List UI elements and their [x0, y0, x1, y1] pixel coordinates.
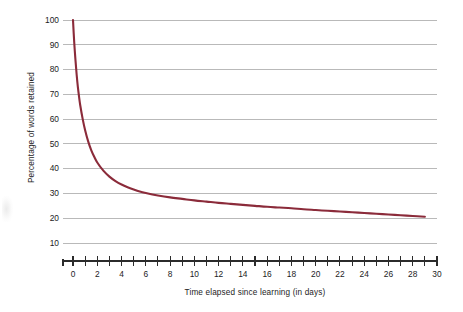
- x-axis-tick-label: 26: [376, 269, 400, 279]
- x-axis-tick-label: 2: [85, 269, 109, 279]
- x-axis: [63, 256, 438, 266]
- x-axis-title: Time elapsed since learning (in days): [73, 288, 437, 297]
- y-axis-title: Percentage of words retained: [27, 33, 36, 223]
- x-axis-tick-label: 8: [158, 269, 182, 279]
- x-axis-tick-label: 10: [182, 269, 206, 279]
- curve-path: [73, 20, 425, 217]
- x-axis-tick-label: 30: [425, 269, 449, 279]
- chart-canvas: [0, 0, 463, 312]
- x-axis-tick-label: 16: [255, 269, 279, 279]
- retention-curve: [73, 20, 425, 217]
- x-axis-tick-label: 12: [207, 269, 231, 279]
- y-axis-tick-label: 10: [31, 238, 59, 248]
- x-axis-tick-label: 0: [61, 269, 85, 279]
- forgetting-curve-chart: 102030405060708090100 024681012141618202…: [0, 0, 463, 312]
- gridlines: [63, 20, 437, 243]
- x-axis-tick-label: 14: [231, 269, 255, 279]
- x-axis-tick-label: 22: [328, 269, 352, 279]
- x-axis-tick-label: 6: [134, 269, 158, 279]
- x-axis-tick-label: 28: [401, 269, 425, 279]
- x-axis-tick-label: 18: [279, 269, 303, 279]
- x-axis-tick-label: 4: [110, 269, 134, 279]
- x-axis-tick-label: 24: [352, 269, 376, 279]
- x-axis-tick-label: 20: [304, 269, 328, 279]
- y-axis-tick-label: 100: [31, 15, 59, 25]
